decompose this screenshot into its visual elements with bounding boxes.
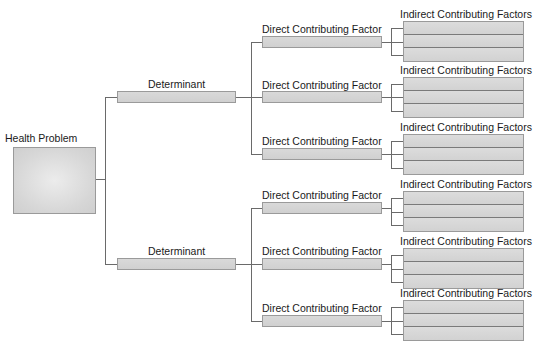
indirect-factor-label: Indirect Contributing Factors [400,121,532,133]
indirect-factor-row [404,262,523,275]
connector [391,269,403,270]
connector [391,198,403,199]
connector [105,97,106,265]
direct-factor-box [262,258,382,270]
connector [391,141,403,142]
connector [391,255,403,256]
indirect-factor-row [404,78,523,91]
direct-factor-label: Direct Contributing Factor [262,23,382,35]
indirect-factor-block [403,300,524,341]
indirect-factor-block [403,77,524,118]
direct-factor-box [262,148,382,160]
determinant-box [117,91,236,103]
direct-factor-box [262,315,382,327]
connector [391,42,403,43]
indirect-factor-row [404,148,523,161]
indirect-factor-label: Indirect Contributing Factors [400,64,532,76]
connector [105,97,117,98]
determinant-label: Determinant [148,78,205,90]
indirect-factor-row [404,22,523,35]
indirect-factor-label: Indirect Contributing Factors [400,8,532,20]
connector [391,307,403,308]
indirect-factor-block [403,191,524,232]
connector [391,154,403,155]
indirect-factor-row [404,91,523,104]
direct-factor-box [262,91,382,103]
connector [251,42,252,154]
indirect-factor-block [403,248,524,289]
connector [391,168,403,169]
indirect-factor-row [404,314,523,327]
connector [391,84,403,85]
determinant-label: Determinant [148,245,205,257]
connector [391,55,403,56]
indirect-factor-row [404,104,523,117]
indirect-factor-row [404,135,523,148]
connector [391,28,403,29]
direct-factor-box [262,202,382,214]
indirect-factor-row [404,218,523,231]
indirect-factor-row [404,301,523,314]
connector [391,225,403,226]
indirect-factor-row [404,249,523,262]
direct-factor-label: Direct Contributing Factor [262,302,382,314]
indirect-factor-row [404,192,523,205]
direct-factor-label: Direct Contributing Factor [262,135,382,147]
indirect-factor-row [404,48,523,61]
health-problem-label: Health Problem [5,132,77,144]
indirect-factor-label: Indirect Contributing Factors [400,235,532,247]
connector [105,264,117,265]
direct-factor-label: Direct Contributing Factor [262,79,382,91]
indirect-factor-row [404,327,523,340]
indirect-factor-block [403,134,524,175]
indirect-factor-row [404,35,523,48]
connector [391,282,403,283]
connector [391,84,392,112]
connector [391,212,403,213]
determinant-box [117,258,236,270]
direct-factor-box [262,36,382,48]
indirect-factor-row [404,205,523,218]
indirect-factor-label: Indirect Contributing Factors [400,178,532,190]
connector [391,321,403,322]
health-problem-box [13,147,96,214]
connector [391,141,392,169]
connector [391,334,403,335]
connector [391,111,403,112]
indirect-factor-block [403,21,524,62]
direct-factor-label: Direct Contributing Factor [262,245,382,257]
indirect-factor-label: Indirect Contributing Factors [400,287,532,299]
connector [391,97,403,98]
direct-factor-label: Direct Contributing Factor [262,189,382,201]
indirect-factor-row [404,161,523,174]
